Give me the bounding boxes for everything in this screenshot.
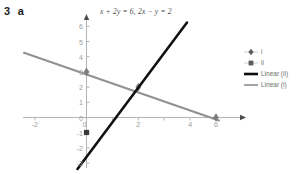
linear-equations-graph: x + 2y = 6, 2x − y = 2 -2 0 2 4 6 -3 -2 … xyxy=(0,0,297,174)
y-tick-label: 0 xyxy=(72,114,83,121)
y-tick-label: -1 xyxy=(72,129,83,136)
y-tick-label: 2 xyxy=(72,84,83,91)
diamond-marker-icon xyxy=(243,47,259,57)
thin-line-swatch-icon xyxy=(243,80,259,90)
legend-item-linear-i[interactable]: Linear (i) xyxy=(243,80,297,90)
chart-legend: i ii Linear (ii) xyxy=(243,47,297,91)
x-tick-label: -2 xyxy=(32,121,38,128)
y-tick-label: 6 xyxy=(72,23,83,30)
y-axis xyxy=(84,14,89,168)
x-tick-label: 0 xyxy=(83,121,87,128)
legend-label: Linear (ii) xyxy=(261,69,288,79)
legend-label: Linear (i) xyxy=(261,80,287,90)
data-point-marker xyxy=(84,130,89,135)
x-tick-label: 4 xyxy=(188,121,192,128)
x-tick-label: 2 xyxy=(136,121,140,128)
y-tick-label: -3 xyxy=(72,160,83,167)
legend-item-linear-ii[interactable]: Linear (ii) xyxy=(243,69,297,79)
y-tick-label: -2 xyxy=(72,144,83,151)
thick-line-swatch-icon xyxy=(243,69,259,79)
y-tick-label: 4 xyxy=(72,53,83,60)
y-tick-label: 1 xyxy=(72,99,83,106)
x-tick-label: 6 xyxy=(214,121,218,128)
chart-title: x + 2y = 6, 2x − y = 2 xyxy=(100,7,200,16)
square-marker-icon xyxy=(243,58,259,68)
line-series-ii xyxy=(78,23,188,170)
legend-item-ii[interactable]: ii xyxy=(243,58,297,68)
y-tick-label: 3 xyxy=(72,68,83,75)
legend-item-i[interactable]: i xyxy=(243,47,297,57)
legend-label: ii xyxy=(261,58,264,68)
y-tick-label: 5 xyxy=(72,38,83,45)
legend-label: i xyxy=(261,47,262,57)
